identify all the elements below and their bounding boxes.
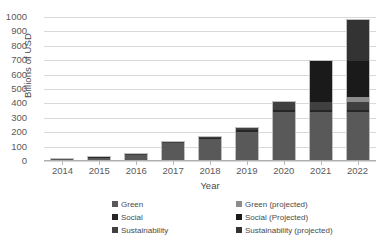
x-axis-labels: 201420152016201720182019202020212022	[44, 165, 376, 176]
y-axis-tick-label: 600	[0, 69, 27, 80]
stacked-bar[interactable]	[235, 127, 259, 161]
y-axis-tick-label: 0	[0, 155, 27, 166]
stacked-bar[interactable]	[198, 136, 222, 161]
bar-slot	[228, 17, 265, 161]
bar-segment	[347, 102, 369, 109]
x-axis-tick-label: 2018	[192, 165, 229, 176]
x-axis-tick-label: 2017	[155, 165, 192, 176]
y-axis-tick-label: 700	[0, 54, 27, 65]
y-axis-tick-label: 900	[0, 25, 27, 36]
bar-slot	[118, 17, 155, 161]
x-axis-tick-label: 2019	[228, 165, 265, 176]
bar-chart: Billions of USD 010020030040050060070080…	[0, 0, 390, 239]
legend-column-actual: GreenSocialSustainability	[112, 198, 168, 237]
bar-group	[44, 17, 376, 161]
bar-segment	[310, 61, 332, 103]
bar-segment	[162, 143, 184, 160]
bar-segment	[347, 20, 369, 60]
legend-item[interactable]: Green (projected)	[236, 198, 333, 210]
legend-column-projected: Green (projected)Social (Projected)Susta…	[236, 198, 333, 237]
y-axis-tick-label: 200	[0, 126, 27, 137]
y-axis-tick-label: 500	[0, 83, 27, 94]
bar-slot	[81, 17, 118, 161]
x-axis-tick-label: 2015	[81, 165, 118, 176]
plot-area: 01002003004005006007008009001000	[44, 17, 376, 161]
x-axis-tick-label: 2020	[265, 165, 302, 176]
bar-segment	[273, 102, 295, 109]
bar-segment	[347, 112, 369, 160]
legend-swatch-icon	[236, 214, 242, 220]
bar-slot	[44, 17, 81, 161]
legend-swatch-icon	[112, 201, 118, 207]
x-axis-tick-label: 2022	[339, 165, 376, 176]
bar-slot	[155, 17, 192, 161]
bar-segment	[273, 112, 295, 160]
stacked-bar[interactable]	[272, 101, 296, 161]
legend-swatch-icon	[236, 227, 242, 233]
legend-label: Green	[121, 200, 143, 209]
bar-slot	[302, 17, 339, 161]
y-axis-tick-label: 800	[0, 40, 27, 51]
bar-segment	[310, 102, 332, 109]
x-axis-line	[44, 160, 376, 161]
legend-swatch-icon	[236, 201, 242, 207]
legend-item[interactable]: Sustainability	[112, 224, 168, 236]
y-axis-tick-label: 1000	[0, 11, 27, 22]
bar-slot	[339, 17, 376, 161]
stacked-bar[interactable]	[309, 60, 333, 161]
y-axis-tick-label: 300	[0, 112, 27, 123]
stacked-bar[interactable]	[161, 141, 185, 161]
x-axis-tick-label: 2021	[302, 165, 339, 176]
bar-slot	[265, 17, 302, 161]
bar-segment	[236, 132, 258, 160]
legend-label: Social	[121, 213, 143, 222]
legend-label: Sustainability	[121, 226, 168, 235]
x-axis-tick-label: 2014	[44, 165, 81, 176]
bar-segment	[310, 112, 332, 160]
y-axis-tick-label: 100	[0, 141, 27, 152]
legend-swatch-icon	[112, 227, 118, 233]
bar-slot	[192, 17, 229, 161]
legend-label: Social (Projected)	[245, 213, 308, 222]
legend-label: Sustainability (projected)	[245, 226, 333, 235]
legend: GreenSocialSustainability Green (project…	[0, 198, 390, 239]
legend-item[interactable]: Social	[112, 211, 168, 223]
stacked-bar[interactable]	[346, 19, 370, 161]
legend-label: Green (projected)	[245, 200, 308, 209]
legend-swatch-icon	[112, 214, 118, 220]
y-axis-tick-label: 400	[0, 97, 27, 108]
bar-segment	[347, 61, 369, 97]
bar-segment	[199, 139, 221, 160]
legend-item[interactable]: Sustainability (projected)	[236, 224, 333, 236]
x-axis-tick-label: 2016	[118, 165, 155, 176]
legend-item[interactable]: Green	[112, 198, 168, 210]
x-axis-title: Year	[44, 180, 376, 191]
legend-item[interactable]: Social (Projected)	[236, 211, 333, 223]
